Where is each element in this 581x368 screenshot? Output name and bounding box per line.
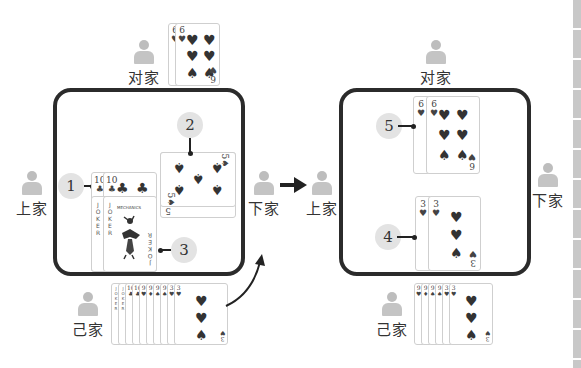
person-icon — [139, 40, 149, 50]
card-6-hearts: 6♥ ♥ ♥ ♥ ♥ ♠ ♠ 6♥ — [426, 96, 480, 174]
jester-icon — [116, 211, 146, 261]
player-label: 上家 — [302, 197, 342, 218]
person-icon — [431, 40, 441, 50]
hand-card[interactable]: 3♥ ♥ ♥ ♠ 3♥ — [449, 283, 493, 345]
player-top-left-scene: 对家 — [124, 40, 164, 87]
card-joker: JOKER MECHANICS JOKER — [103, 196, 157, 272]
person-body-icon — [78, 303, 98, 316]
connector-dot — [158, 248, 163, 253]
hand-card[interactable]: 3♥ ♥ ♥ ♠ 3♥ — [174, 283, 228, 345]
card-5-spades: 5♠ ♠ ♠ ♠ ♠ ♠ 5♠ — [160, 152, 236, 207]
player-label: 己家 — [68, 318, 108, 339]
card-3-hearts: 3♥ ♥ ♥ ♠ 3♥ — [428, 196, 481, 271]
player-left-right-scene: 上家 — [302, 171, 342, 218]
person-body-icon — [134, 51, 154, 64]
player-right-right-scene: 下家 — [528, 163, 568, 210]
person-body-icon — [426, 51, 446, 64]
person-icon — [317, 171, 327, 181]
connector-dot — [188, 151, 193, 156]
person-body-icon — [312, 182, 332, 195]
player-label: 对家 — [416, 66, 456, 87]
person-icon — [543, 163, 553, 173]
player-left: 上家 — [12, 171, 52, 218]
person-icon — [259, 171, 269, 181]
player-hand: 9♥ 9♦ 9♠ 9♠ 3♥ 3♥ ♥ ♥ ♠ 3♥ — [414, 283, 494, 347]
card: 6♥ ♥ ♥ ♥ ♥ ♠ ♠ 6♥ — [175, 23, 220, 86]
curved-arrow-icon — [222, 250, 272, 310]
player-label: 下家 — [244, 197, 284, 218]
connector-dot — [412, 235, 417, 240]
player-hand: JOKER JOKER 10♣ 10♣ 9♥ 9♦ 9♠ 9♠ 3♥ 3♥ ♥ … — [111, 283, 238, 347]
connector-dot — [411, 124, 416, 129]
person-icon — [27, 171, 37, 181]
player-label: 己家 — [372, 318, 412, 339]
joker-caption: MECHANICS — [117, 205, 141, 210]
person-body-icon — [254, 182, 274, 195]
player-right-left-scene: 下家 — [244, 171, 284, 218]
player-top-right-scene: 对家 — [416, 40, 456, 87]
player-bottom-right-scene: 己家 — [372, 292, 412, 339]
player-bottom-left-scene: 己家 — [68, 292, 108, 339]
person-body-icon — [382, 303, 402, 316]
page-edge — [573, 0, 581, 368]
person-icon — [83, 292, 93, 302]
player-label: 对家 — [124, 66, 164, 87]
player-label: 下家 — [528, 189, 568, 210]
player-label: 上家 — [12, 197, 52, 218]
step-badge-2: 2 — [177, 112, 203, 138]
step-badge-1: 1 — [58, 173, 84, 199]
step-badge-3: 3 — [171, 237, 197, 263]
person-body-icon — [538, 174, 558, 187]
person-icon — [387, 292, 397, 302]
person-body-icon — [22, 182, 42, 195]
